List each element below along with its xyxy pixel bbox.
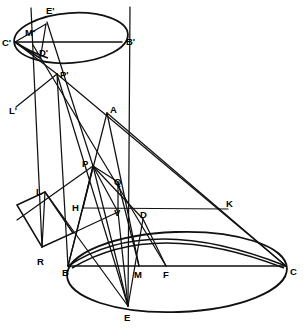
segment-Cprime-Pprime <box>15 42 57 74</box>
label-R: R <box>37 256 44 267</box>
lower-ellipse-inner-arc-2 <box>72 243 284 268</box>
label-D: D <box>140 209 147 220</box>
upper-ellipse-group <box>12 9 129 67</box>
label-E: E <box>124 312 130 323</box>
label-L: L <box>36 186 42 197</box>
label-B-prime: B' <box>126 36 135 47</box>
label-M-prime: M' <box>25 27 35 38</box>
label-D-prime: D' <box>39 47 48 58</box>
upper-ellipse <box>12 9 129 67</box>
segment-H-K <box>83 208 228 209</box>
label-K: K <box>226 198 233 209</box>
diagram-canvas: E' C' M' D' B' P' L' A P Q L H V D K R B… <box>0 0 306 329</box>
label-P: P <box>82 158 89 169</box>
label-B: B <box>62 267 69 278</box>
label-A: A <box>110 104 117 115</box>
label-P-prime: P' <box>60 69 69 80</box>
ray-Pprime-Lprime <box>16 74 57 107</box>
lower-ellipse <box>66 228 289 316</box>
geometry-figure: E' C' M' D' B' P' L' A P Q L H V D K R B… <box>0 0 306 329</box>
segment-V-E <box>118 212 128 306</box>
line-topright-through-Bprime-to-E <box>128 7 130 306</box>
label-L-prime: L' <box>9 105 17 116</box>
label-group: E' C' M' D' B' P' L' A P Q L H V D K R B… <box>2 5 297 323</box>
label-H: H <box>72 202 79 213</box>
label-C-prime: C' <box>2 37 11 48</box>
label-V: V <box>114 207 121 218</box>
line-topleft-to-R <box>31 8 42 247</box>
label-E-prime: E' <box>46 5 55 16</box>
label-Q: Q <box>114 176 121 187</box>
label-M: M <box>134 269 142 280</box>
label-C: C <box>290 266 297 277</box>
ray-Mprime-through-Pprime-to-F <box>33 45 166 266</box>
segment-Eprime-P <box>47 22 93 166</box>
segment-parallelogram-to-V <box>73 212 118 233</box>
projection-cone-group <box>16 45 286 306</box>
lower-ellipse-group <box>66 228 289 316</box>
label-F: F <box>163 269 169 280</box>
